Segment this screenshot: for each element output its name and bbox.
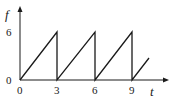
sawtooth-series bbox=[20, 32, 149, 80]
y-tick-6: 6 bbox=[6, 26, 12, 38]
x-axis-arrow-icon bbox=[163, 78, 169, 83]
y-axis-arrow-icon bbox=[18, 6, 23, 12]
x-tick-6: 6 bbox=[92, 84, 98, 96]
y-axis-label: f bbox=[5, 7, 11, 22]
y-tick-0: 0 bbox=[6, 74, 12, 86]
x-tick-3: 3 bbox=[54, 84, 60, 96]
sawtooth-chart: f t 6 0 0 3 6 9 bbox=[0, 0, 178, 98]
x-tick-9: 9 bbox=[129, 84, 135, 96]
x-axis-label: t bbox=[150, 84, 154, 98]
x-tick-0: 0 bbox=[17, 84, 23, 96]
